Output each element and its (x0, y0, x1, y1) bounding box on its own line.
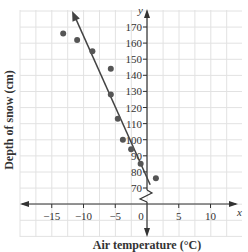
data-point (120, 137, 126, 143)
x-axis-title: Air temperature (°C) (93, 238, 201, 252)
y-tick-label: 170 (126, 21, 143, 33)
y-tick-label: 140 (126, 69, 143, 81)
x-axis-left-arrow-icon (20, 201, 29, 207)
y-tick-label: 80 (131, 166, 143, 178)
trend-line-arrow-icon (72, 11, 80, 22)
tick-labels: −15−10−505107080901001101201301401501601… (43, 21, 216, 222)
y-axis-variable: y (137, 4, 143, 16)
x-tick-label: −10 (75, 210, 93, 222)
data-points (60, 30, 159, 181)
y-tick-label: 160 (126, 37, 143, 49)
data-point (108, 66, 114, 72)
y-axis-down-arrow-icon (144, 228, 150, 237)
data-point (153, 175, 159, 181)
y-axis-title: Depth of snow (cm) (2, 70, 16, 170)
y-tick-label: 110 (126, 118, 143, 130)
y-axis-up-arrow-icon (144, 9, 150, 18)
y-tick-label: 150 (126, 53, 143, 65)
scatter-chart: −15−10−505107080901001101201301401501601… (0, 0, 248, 252)
data-point (108, 92, 114, 98)
y-tick-label: 70 (131, 182, 143, 194)
x-axis-variable: x (236, 206, 242, 218)
x-tick-label: 0 (138, 210, 144, 222)
x-tick-label: −5 (109, 210, 121, 222)
data-point (138, 161, 144, 167)
data-point (89, 48, 95, 54)
x-tick-label: 5 (176, 210, 182, 222)
y-tick-label: 120 (126, 102, 143, 114)
x-tick-label: −15 (43, 210, 61, 222)
data-point (128, 146, 134, 152)
data-point (115, 116, 121, 122)
y-tick-label: 130 (126, 85, 143, 97)
x-tick-label: 10 (205, 210, 217, 222)
data-point (74, 37, 80, 43)
data-point (60, 30, 66, 36)
